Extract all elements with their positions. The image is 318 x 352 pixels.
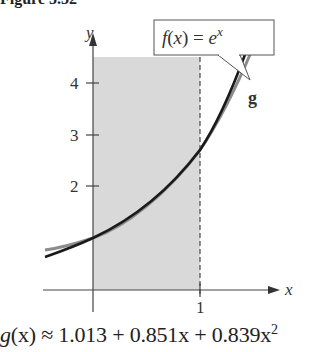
y-tick-label-4: 4: [70, 74, 79, 93]
caption-g: g: [0, 322, 11, 347]
x-axis-arrow-icon: [268, 286, 280, 294]
y-tick-label-3: 3: [70, 126, 79, 145]
callout-text: f(x) = ex: [162, 24, 223, 49]
caption-body: (x) ≈ 1.013 + 0.851x + 0.839x: [11, 322, 271, 347]
x-axis-label: x: [284, 280, 293, 299]
caption-exponent: 2: [271, 322, 278, 337]
shaded-region: [93, 57, 200, 290]
graph: x y 4 3 2 1 f(x) = ex g: [0, 0, 318, 352]
y-axis-label: y: [84, 23, 94, 42]
x-tick-label-1: 1: [196, 298, 205, 317]
caption: g(x) ≈ 1.013 + 0.851x + 0.839x2: [0, 322, 318, 348]
callout-pointer: [218, 55, 250, 80]
g-curve-label: g: [248, 88, 257, 108]
y-tick-label-2: 2: [70, 177, 79, 196]
